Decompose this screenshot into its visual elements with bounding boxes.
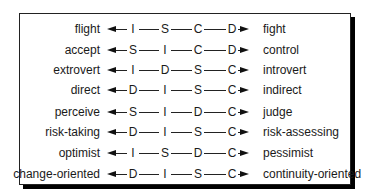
right-pole-label: risk-assessing <box>263 124 339 140</box>
arrow-right-icon <box>240 171 249 177</box>
left-pole-label: flight <box>75 21 100 37</box>
left-pole-label: accept <box>65 42 100 58</box>
arrow-left-icon <box>107 67 116 73</box>
style-letter-2: D <box>159 62 171 78</box>
style-letter-4: D <box>226 21 238 37</box>
style-letter-1: D <box>127 124 139 140</box>
arrow-right-icon <box>240 109 249 115</box>
style-letter-3: C <box>192 21 204 37</box>
style-letter-1: I <box>127 62 139 78</box>
arrow-right-icon <box>240 67 249 73</box>
arrow-right-icon <box>240 150 249 156</box>
style-letter-2: I <box>159 104 171 120</box>
style-letter-3: S <box>192 82 204 98</box>
style-letter-3: D <box>192 104 204 120</box>
style-letter-2: S <box>159 145 171 161</box>
left-pole-label: risk-taking <box>45 124 100 140</box>
style-letter-3: D <box>192 145 204 161</box>
continuum-row: flight I S C D fight <box>0 21 369 37</box>
left-pole-label: change-oriented <box>13 166 100 182</box>
continuum-row: risk-taking D I S C risk-assessing <box>0 124 369 140</box>
continuum-row: perceive S I D C judge <box>0 104 369 120</box>
right-pole-label: indirect <box>263 82 302 98</box>
style-letter-4: D <box>226 42 238 58</box>
arrow-left-icon <box>107 150 116 156</box>
style-letter-1: D <box>127 166 139 182</box>
style-letter-2: I <box>159 82 171 98</box>
style-letter-4: C <box>226 166 238 182</box>
arrow-right-icon <box>240 87 249 93</box>
style-letter-1: S <box>127 42 139 58</box>
style-letter-3: C <box>192 42 204 58</box>
arrow-left-icon <box>107 87 116 93</box>
continuum-row: extrovert I D S C introvert <box>0 62 369 78</box>
right-pole-label: continuity-oriented <box>263 166 361 182</box>
left-pole-label: extrovert <box>53 62 100 78</box>
style-letter-4: C <box>226 104 238 120</box>
style-letter-4: C <box>226 62 238 78</box>
style-letter-4: C <box>226 145 238 161</box>
style-letter-3: S <box>192 166 204 182</box>
right-pole-label: pessimist <box>263 145 313 161</box>
style-letter-2: I <box>159 166 171 182</box>
style-letter-1: I <box>127 21 139 37</box>
style-letter-2: S <box>159 21 171 37</box>
arrow-right-icon <box>240 26 249 32</box>
style-letter-3: S <box>192 124 204 140</box>
arrow-right-icon <box>240 47 249 53</box>
arrow-left-icon <box>107 109 116 115</box>
arrow-left-icon <box>107 47 116 53</box>
style-letter-1: S <box>127 104 139 120</box>
right-pole-label: introvert <box>263 62 306 78</box>
continuum-row: change-oriented D I S C continuity-orien… <box>0 166 369 182</box>
left-pole-label: direct <box>71 82 100 98</box>
style-letter-4: C <box>226 82 238 98</box>
arrow-left-icon <box>107 171 116 177</box>
arrow-left-icon <box>107 129 116 135</box>
continuum-row: direct D I S C indirect <box>0 82 369 98</box>
right-pole-label: fight <box>263 21 286 37</box>
right-pole-label: control <box>263 42 299 58</box>
left-pole-label: optimist <box>59 145 100 161</box>
left-pole-label: perceive <box>55 104 100 120</box>
right-pole-label: judge <box>263 104 292 120</box>
style-letter-2: I <box>159 124 171 140</box>
continuum-row: accept S I C D control <box>0 42 369 58</box>
style-letter-4: C <box>226 124 238 140</box>
arrow-right-icon <box>240 129 249 135</box>
style-letter-1: I <box>127 145 139 161</box>
arrow-left-icon <box>107 26 116 32</box>
continuum-row: optimist I S D C pessimist <box>0 145 369 161</box>
style-letter-1: D <box>127 82 139 98</box>
style-letter-2: I <box>159 42 171 58</box>
style-letter-3: S <box>192 62 204 78</box>
